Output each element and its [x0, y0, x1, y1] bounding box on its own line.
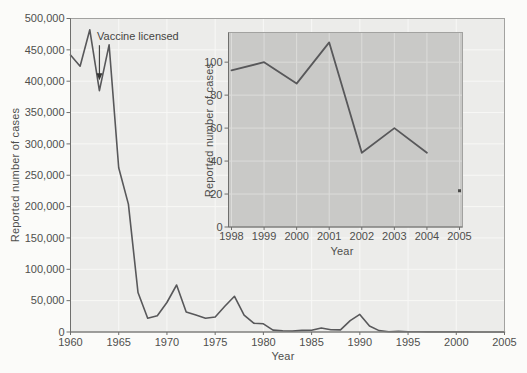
main-x-tick-label: 1960 — [58, 336, 82, 348]
inset-x-tick-label: 2000 — [284, 230, 308, 242]
main-x-axis-title: Year — [243, 350, 323, 362]
inset-x-tick-label: 2002 — [350, 230, 374, 242]
main-y-tick-label: 300,000 — [25, 138, 65, 150]
inset-x-tick-label: 2004 — [415, 230, 439, 242]
measles-cases-chart-svg: 050,000100,000150,000200,000250,000300,0… — [0, 0, 527, 373]
main-y-tick-label: 250,000 — [25, 169, 65, 181]
inset-x-tick-label: 2003 — [382, 230, 406, 242]
main-y-tick-label: 400,000 — [25, 75, 65, 87]
main-x-tick-label: 1970 — [155, 336, 179, 348]
main-y-tick-label: 450,000 — [25, 44, 65, 56]
inset-isolated-data-point — [458, 189, 461, 192]
main-x-tick-label: 1980 — [251, 336, 275, 348]
figure: 050,000100,000150,000200,000250,000300,0… — [0, 0, 527, 373]
inset-x-tick-label: 2001 — [317, 230, 341, 242]
main-y-tick-label: 100,000 — [25, 263, 65, 275]
main-y-tick-label: 350,000 — [25, 106, 65, 118]
main-x-tick-label: 2000 — [444, 336, 468, 348]
main-y-tick-label: 150,000 — [25, 232, 65, 244]
main-x-tick-label: 2005 — [492, 336, 516, 348]
main-x-tick-label: 1985 — [299, 336, 323, 348]
main-x-tick-label: 1990 — [348, 336, 372, 348]
vaccine-licensed-annotation-label: Vaccine licensed — [97, 30, 179, 42]
main-y-tick-label: 500,000 — [25, 12, 65, 24]
inset-x-tick-label: 1998 — [219, 230, 243, 242]
inset-x-tick-label: 2005 — [447, 230, 471, 242]
main-y-tick-label: 200,000 — [25, 200, 65, 212]
main-x-tick-label: 1975 — [203, 336, 227, 348]
main-y-tick-label: 50,000 — [31, 294, 65, 306]
main-x-tick-label: 1965 — [106, 336, 130, 348]
main-y-axis-title: Reported number of cases — [9, 75, 21, 275]
inset-x-axis-title: Year — [302, 245, 382, 257]
inset-chart: 0204060801001998199920002001200220032004… — [204, 33, 472, 243]
inset-x-tick-label: 1999 — [252, 230, 276, 242]
inset-y-axis-title: Reported number of cases — [203, 30, 215, 230]
main-x-tick-label: 1995 — [396, 336, 420, 348]
